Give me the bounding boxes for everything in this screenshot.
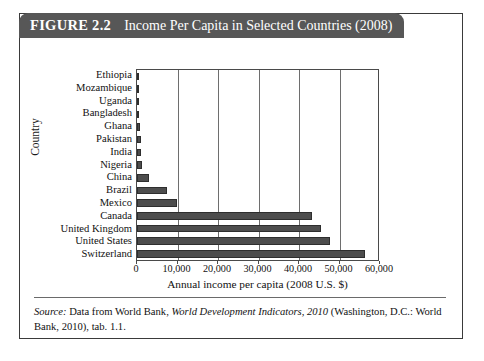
- x-axis-ticks: 010,00020,00030,00040,00050,00060,000: [136, 261, 379, 277]
- x-tick-label: 60,000: [365, 263, 393, 274]
- category-label: Mozambique: [40, 82, 136, 95]
- x-tick-label: 30,000: [243, 263, 271, 274]
- figure-container: FIGURE 2.2 Income Per Capita in Selected…: [19, 13, 463, 339]
- bar-row: [137, 222, 378, 235]
- bar: [137, 149, 141, 157]
- bar-row: [137, 121, 378, 134]
- bar-row: [137, 171, 378, 184]
- source-divider: [34, 297, 446, 298]
- bar: [137, 250, 365, 258]
- category-label: United States: [40, 235, 136, 248]
- source-label: Source:: [34, 306, 67, 317]
- chart-region: Country EthiopiaMozambiqueUgandaBanglade…: [20, 39, 462, 290]
- bar-row: [137, 247, 378, 260]
- x-tick-label: 20,000: [203, 263, 231, 274]
- bar-row: [137, 133, 378, 146]
- bar-row: [137, 159, 378, 172]
- category-label: Canada: [40, 210, 136, 223]
- source-work-title: World Development Indicators, 2010: [171, 306, 328, 317]
- x-tick-label: 0: [133, 263, 138, 274]
- bar: [137, 187, 167, 195]
- x-tick-label: 40,000: [284, 263, 312, 274]
- category-label: Switzerland: [40, 248, 136, 261]
- bar-row: [137, 209, 378, 222]
- category-label: Ethiopia: [40, 69, 136, 82]
- bar: [137, 85, 139, 93]
- category-label: India: [40, 146, 136, 159]
- category-label: China: [40, 171, 136, 184]
- bar-row: [137, 108, 378, 121]
- category-label: Bangladesh: [40, 107, 136, 120]
- category-label: Brazil: [40, 184, 136, 197]
- bar-row: [137, 184, 378, 197]
- bar: [137, 123, 140, 131]
- category-label: Nigeria: [40, 159, 136, 172]
- bar: [137, 161, 142, 169]
- plot-area: [136, 69, 379, 261]
- bar: [137, 98, 139, 106]
- bar: [137, 136, 141, 144]
- figure-title: Income Per Capita in Selected Countries …: [124, 18, 392, 34]
- bar-row: [137, 146, 378, 159]
- bar-row: [137, 70, 378, 83]
- category-label: United Kingdom: [40, 223, 136, 236]
- bar: [137, 212, 312, 220]
- x-tick-label: 10,000: [162, 263, 190, 274]
- category-label: Mexico: [40, 197, 136, 210]
- bar: [137, 199, 177, 207]
- bar: [137, 225, 321, 233]
- x-tick-label: 50,000: [324, 263, 352, 274]
- bar-row: [137, 197, 378, 210]
- figure-number: FIGURE 2.2: [30, 17, 111, 34]
- bar: [137, 73, 139, 81]
- figure-header-bar: FIGURE 2.2 Income Per Capita in Selected…: [19, 13, 404, 38]
- source-note: Source: Data from World Bank, World Deve…: [34, 304, 450, 334]
- bars-layer: [137, 70, 378, 260]
- bar: [137, 237, 330, 245]
- bar: [137, 174, 149, 182]
- category-label: Ghana: [40, 120, 136, 133]
- y-axis-category-labels: EthiopiaMozambiqueUgandaBangladeshGhanaP…: [40, 69, 136, 261]
- bar-row: [137, 95, 378, 108]
- bar-row: [137, 83, 378, 96]
- category-label: Uganda: [40, 95, 136, 108]
- source-text-before: Data from World Bank,: [67, 306, 172, 317]
- category-label: Pakistan: [40, 133, 136, 146]
- x-axis-title: Annual income per capita (2008 U.S. $): [136, 278, 379, 290]
- bar: [137, 111, 139, 119]
- bar-row: [137, 235, 378, 248]
